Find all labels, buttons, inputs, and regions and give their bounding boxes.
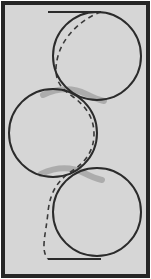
figure-container — [0, 0, 151, 279]
rolling-circles-figure — [0, 0, 151, 279]
panel-fill-rect — [5, 5, 146, 274]
